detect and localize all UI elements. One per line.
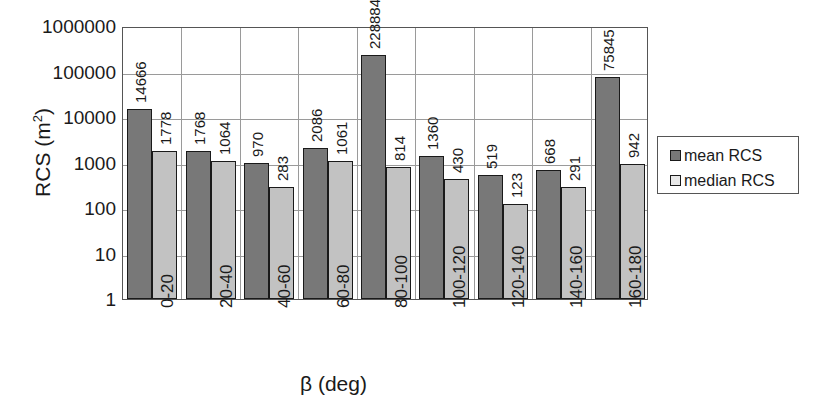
bar-mean-rcs[interactable] [361,55,386,299]
x-tick-label: 100-120 [451,246,468,308]
legend-item-mean-rcs[interactable]: mean RCS [670,145,798,166]
x-tick-label: 120-140 [510,246,527,308]
x-tick-label: 160-180 [627,246,644,308]
legend-label-median-rcs: median RCS [684,173,775,189]
legend-label-mean-rcs: mean RCS [684,148,762,164]
bar-value-label: 1768 [192,112,207,145]
bar-group: 146661778 [123,28,181,299]
bar-mean-rcs[interactable] [244,163,269,299]
y-tick-label: 1000000 [8,17,116,36]
bar-mean-rcs[interactable] [478,175,503,299]
y-tick-label: 10 [8,245,116,264]
bar-value-label: 123 [509,173,524,198]
bar-mean-rcs[interactable] [536,170,561,299]
bar-value-label: 2086 [309,109,324,142]
bar-value-label: 430 [450,148,465,173]
bar-value-label: 75845 [601,29,616,71]
bar-value-label: 14666 [133,62,148,104]
light-gray-swatch-icon [670,175,681,186]
y-tick-label: 1000 [8,154,116,173]
x-tick-label: 140-160 [568,246,585,308]
bar-value-label: 814 [392,136,407,161]
bar-mean-rcs[interactable] [595,77,620,299]
x-tick-label: 80-100 [393,255,410,308]
bar-group: 20861061 [298,28,356,299]
bar-value-label: 668 [542,139,557,164]
x-tick-label: 20-40 [218,265,235,308]
dark-gray-swatch-icon [670,150,681,161]
bar-value-label: 1360 [425,117,440,150]
bar-mean-rcs[interactable] [419,156,444,299]
bar-value-label: 1778 [158,112,173,145]
bar-value-label: 228884 [367,0,382,49]
rcs-bar-chart: RCS (m2) 1000000100000100001000100101 14… [0,0,834,407]
bar-mean-rcs[interactable] [127,109,152,299]
x-tick-label: 40-60 [276,265,293,308]
bar-value-label: 519 [484,144,499,169]
bar-mean-rcs[interactable] [303,148,328,299]
bar-value-label: 970 [250,132,265,157]
x-axis-title: β (deg) [300,372,367,396]
bar-value-label: 283 [275,156,290,181]
bar-value-label: 1061 [334,122,349,155]
legend-item-median-rcs[interactable]: median RCS [670,170,798,191]
bar-value-label: 1064 [217,122,232,155]
y-tick-label: 10000 [8,108,116,127]
x-tick-label: 60-80 [335,265,352,308]
bar-group: 970283 [240,28,298,299]
y-axis-tick-labels: 1000000100000100001000100101 [6,0,116,407]
y-tick-label: 1 [8,290,116,309]
bar-value-label: 291 [567,156,582,181]
y-tick-label: 100000 [8,63,116,82]
bar-mean-rcs[interactable] [186,151,211,299]
bar-group: 17681064 [181,28,239,299]
chart-legend: mean RCS median RCS [657,136,799,194]
x-axis-tick-labels: 0-2020-4040-6060-8080-100100-120120-1401… [122,300,648,390]
x-tick-label: 0-20 [159,274,176,308]
y-tick-label: 100 [8,199,116,218]
bar-value-label: 942 [626,133,641,158]
